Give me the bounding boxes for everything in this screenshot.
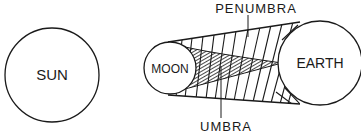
sun: SUN xyxy=(5,28,99,122)
earth: EARTH xyxy=(278,21,361,105)
moon-label: MOON xyxy=(151,62,188,76)
eclipse-diagram: SUN MOON xyxy=(0,0,361,137)
moon: MOON xyxy=(144,42,196,94)
penumbra-label: PENUMBRA xyxy=(215,1,297,16)
sun-label: SUN xyxy=(36,66,68,83)
earth-label: EARTH xyxy=(296,55,343,71)
umbra-label: UMBRA xyxy=(200,119,252,134)
